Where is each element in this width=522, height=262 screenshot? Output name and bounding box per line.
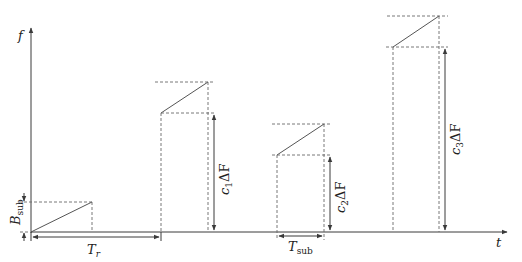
tr-dimension: Tr <box>31 232 161 259</box>
y-axis-label: f <box>17 28 25 43</box>
c1-offset-label: c1ΔF <box>217 164 234 195</box>
axes: f t <box>17 28 507 250</box>
ramp-1: c1ΔF <box>155 82 234 232</box>
ramp-2-slope <box>277 124 324 155</box>
stepped-chirp-diagram: f t Bsub Tr c1ΔF <box>0 0 522 262</box>
ramp-0-slope <box>31 202 92 232</box>
x-axis-label: t <box>496 235 502 250</box>
tr-label: Tr <box>87 242 101 259</box>
ramp-0: Bsub <box>8 193 92 241</box>
ramp-3-slope <box>393 16 439 47</box>
ramp-3: c3ΔF <box>386 16 465 232</box>
ramp-2: c2ΔF Tsub <box>272 124 350 256</box>
ramp-1-slope <box>161 82 208 113</box>
tsub-label: Tsub <box>288 239 313 256</box>
bsub-label: Bsub <box>8 199 25 226</box>
c3-offset-label: c3ΔF <box>448 124 465 155</box>
c2-offset-label: c2ΔF <box>333 182 350 213</box>
